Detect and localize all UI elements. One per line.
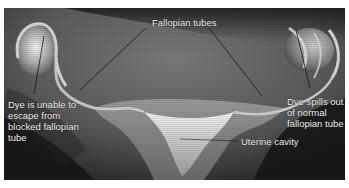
label-normal-tube: Dye spills out of normal fallopian tube [287, 96, 345, 129]
anatomy-illustration [4, 8, 345, 180]
label-blocked-tube: Dye is unable to escape from blocked fal… [8, 99, 88, 143]
label-fallopian-tubes: Fallopian tubes [152, 17, 216, 28]
label-uterine-cavity: Uterine cavity [241, 136, 299, 147]
hsg-diagram: Fallopian tubes Dye is unable to escape … [4, 8, 345, 180]
